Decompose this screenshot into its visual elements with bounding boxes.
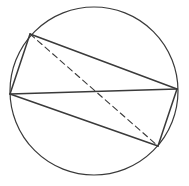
edge-CD: [10, 94, 158, 146]
cyclic-quadrilateral-diagram: [0, 0, 189, 186]
edge-AB: [30, 34, 177, 89]
quadrilateral-edges: [10, 34, 177, 146]
edge-DA: [10, 34, 30, 94]
